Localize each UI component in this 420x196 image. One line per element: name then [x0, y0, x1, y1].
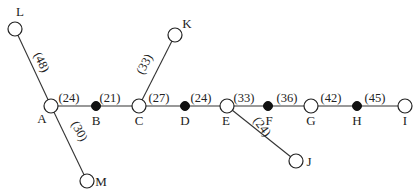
edge-weights-layer: (48)(30)(24)(21)(33)(27)(24)(33)(24)(36)… — [31, 50, 386, 144]
edge-weight-a-b: (24) — [59, 91, 80, 105]
edge-weight-g-h: (42) — [321, 91, 342, 105]
node-label-l: L — [16, 4, 24, 19]
node-label-c: C — [135, 113, 144, 128]
node-h-filled-dot-icon — [353, 102, 362, 111]
node-d-filled-dot-icon — [181, 102, 190, 111]
node-label-e: E — [222, 113, 230, 128]
node-label-m: M — [95, 174, 107, 189]
edge-weight-l-a: (48) — [31, 50, 53, 75]
edge-weight-e-f: (33) — [234, 91, 255, 105]
edge-weight-c-k: (33) — [133, 52, 155, 77]
node-b-filled-dot-icon — [92, 102, 101, 111]
node-label-d: D — [180, 113, 189, 128]
edge-weight-d-e: (24) — [191, 91, 212, 105]
node-l-open-circle-icon — [8, 22, 22, 36]
node-label-i: I — [403, 113, 407, 128]
edge-weight-b-c: (21) — [100, 91, 121, 105]
node-k-open-circle-icon — [168, 28, 182, 42]
node-label-j: J — [306, 154, 311, 169]
node-m-open-circle-icon — [80, 174, 94, 188]
node-i-open-circle-icon — [398, 99, 412, 113]
node-label-f: F — [265, 113, 272, 128]
node-label-b: B — [92, 113, 101, 128]
nodes-layer — [8, 22, 412, 188]
edge-weight-h-i: (45) — [365, 91, 386, 105]
network-diagram: (48)(30)(24)(21)(33)(27)(24)(33)(24)(36)… — [0, 0, 420, 196]
node-e-open-circle-icon — [220, 99, 234, 113]
node-label-g: G — [306, 113, 315, 128]
edge-weight-a-m: (30) — [68, 119, 90, 144]
node-label-h: H — [352, 113, 361, 128]
node-f-filled-dot-icon — [264, 102, 273, 111]
node-j-open-circle-icon — [289, 154, 303, 168]
edge-a-m — [51, 106, 87, 181]
node-label-a: A — [37, 111, 47, 126]
node-label-k: K — [182, 16, 192, 31]
edge-weight-f-g: (36) — [277, 91, 298, 105]
node-g-open-circle-icon — [304, 99, 318, 113]
edges-layer — [15, 29, 405, 181]
edge-weight-c-d: (27) — [149, 91, 170, 105]
node-c-open-circle-icon — [132, 99, 146, 113]
